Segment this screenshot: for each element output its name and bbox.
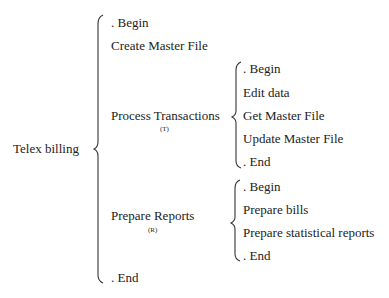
step-end: . End xyxy=(111,270,138,285)
pr-begin: . Begin xyxy=(243,179,281,194)
root-label: Telex billing xyxy=(13,141,79,156)
step-process-transactions: Process Transactions xyxy=(111,108,220,123)
pt-update-master-file: Update Master File xyxy=(243,131,343,146)
pr-prepare-bills: Prepare bills xyxy=(243,202,308,217)
step-prepare-reports: Prepare Reports xyxy=(111,208,194,223)
brace-process-transactions xyxy=(232,62,241,168)
pr-end: . End xyxy=(243,248,270,263)
pt-get-master-file: Get Master File xyxy=(243,108,325,123)
pr-prepare-statistical-reports: Prepare statistical reports xyxy=(243,225,374,240)
pt-begin: . Begin xyxy=(243,61,281,76)
pt-end: . End xyxy=(243,154,270,169)
pt-edit-data: Edit data xyxy=(243,85,290,100)
brace-prepare-reports xyxy=(231,180,240,261)
step-begin: . Begin xyxy=(111,15,149,30)
step-create-master-file: Create Master File xyxy=(111,38,208,53)
brace-telex-billing xyxy=(94,15,103,283)
annotation-r: (R) xyxy=(148,226,157,234)
annotation-t: (T) xyxy=(160,125,169,133)
